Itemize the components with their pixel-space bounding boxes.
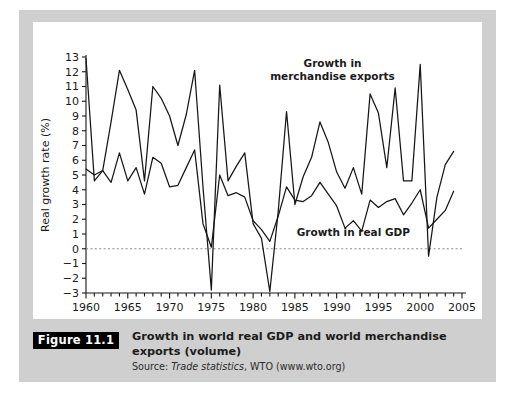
growth-line-chart: −3−2−1012345678910111213 196019651970197… [33,22,482,319]
x-tick-label: 1960 [72,301,100,314]
y-tick-label: 10 [65,95,79,108]
x-tick-label: 1990 [323,301,351,314]
figure-container: −3−2−1012345678910111213 196019651970197… [0,0,514,408]
y-tick-label: 8 [72,125,79,138]
figure-number-badge: Figure 11.1 [33,332,119,349]
y-axis-title-text: Real growth rate (%) [39,118,52,232]
y-axis-tick-labels: −3−2−1012345678910111213 [63,51,79,300]
y-tick-label: 1 [72,228,79,241]
y-tick-label: 7 [72,139,79,152]
figure-caption-title: Growth in world real GDP and world merch… [132,330,482,359]
figure-source-line: Source: Trade statistics, WTO (www.wto.o… [132,361,482,372]
y-tick-label: 3 [72,198,79,211]
y-tick-label: −2 [63,272,79,285]
y-tick-label: 2 [72,213,79,226]
x-tick-label: 1975 [197,301,225,314]
figure-caption: Figure 11.1 Growth in world real GDP and… [33,330,482,378]
y-tick-label: 6 [72,154,79,167]
x-tick-label: 1970 [156,301,184,314]
x-tick-label: 2005 [448,301,476,314]
x-tick-label: 2000 [406,301,434,314]
source-rest: , WTO (www.wto.org) [244,361,345,372]
y-tick-label: 13 [65,51,79,64]
source-italic-title: Trade statistics [171,361,244,372]
x-axis-tick-labels: 1960196519701975198019851990199520002005 [72,301,476,314]
x-tick-label: 1995 [364,301,392,314]
x-tick-label: 1985 [281,301,309,314]
series-line-merchandise-exports [86,58,454,291]
y-tick-label: 0 [72,243,79,256]
chart-series-lines [86,58,454,291]
y-axis-title: Real growth rate (%) [39,118,52,232]
y-tick-label: −1 [63,257,79,270]
chart-card: −3−2−1012345678910111213 196019651970197… [33,22,482,319]
x-tick-label: 1965 [114,301,142,314]
y-tick-label: 9 [72,110,79,123]
y-tick-label: 4 [72,184,79,197]
y-tick-label: 5 [72,169,79,182]
y-tick-label: 12 [65,66,79,79]
y-tick-label: 11 [65,80,79,93]
source-prefix: Source: [132,361,171,372]
annotation-merchandise-exports: Growth in [304,57,362,69]
annotation-real-gdp: Growth in real GDP [297,226,411,238]
x-tick-label: 1980 [239,301,267,314]
annotation-merchandise-exports-line2: merchandise exports [270,70,395,82]
y-tick-label: −3 [63,287,79,300]
